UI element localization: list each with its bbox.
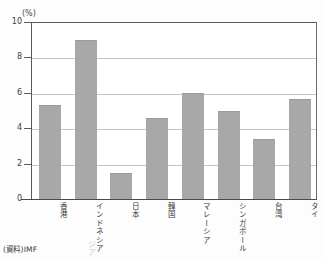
bar-series (32, 23, 316, 199)
bar (253, 139, 275, 199)
x-axis-category-label: 香港 (31, 202, 67, 219)
y-axis-tick (24, 164, 31, 165)
cut-off-header-text (0, 0, 323, 9)
bar-slot (104, 23, 140, 199)
x-axis-category-label: タイ (281, 202, 317, 219)
x-axis-category-label: インドネシア (67, 202, 103, 252)
bar-slot (68, 23, 104, 199)
x-axis-category-label: 台湾 (246, 202, 282, 219)
x-axis-category-label: マレーシア (174, 202, 210, 244)
x-axis-labels: 香港インドネシア日本韓国マレーシアシンガポール台湾タイ (31, 202, 317, 258)
x-axis-category-label: 日本 (103, 202, 139, 219)
bar (146, 118, 168, 199)
bar (75, 40, 97, 199)
bar (182, 93, 204, 199)
bar-slot (175, 23, 211, 199)
bar-slot (247, 23, 283, 199)
y-axis-tick (24, 57, 31, 58)
x-axis-category-label: シンガポール (210, 202, 246, 252)
chart-page: (%) 0246810 香港インドネシア日本韓国マレーシアシンガポール台湾タイ … (0, 0, 323, 261)
scan-artifact-text: ジア (86, 240, 94, 256)
y-axis-tick-label: 2 (2, 159, 22, 168)
y-axis-unit-label: (%) (22, 9, 36, 18)
bar-slot (282, 23, 318, 199)
plot-area (31, 22, 317, 199)
source-note: (資料)IMF (3, 243, 37, 254)
y-axis-tick-label: 10 (2, 17, 22, 26)
y-axis-tick-label: 0 (2, 194, 22, 203)
x-axis-line (21, 199, 317, 200)
bar-slot (139, 23, 175, 199)
y-axis-tick (24, 93, 31, 94)
x-axis-category-label: 韓国 (138, 202, 174, 219)
y-axis-tick (24, 22, 31, 23)
bar (218, 111, 240, 200)
bar (289, 99, 311, 199)
bar-slot (211, 23, 247, 199)
y-axis-tick-label: 6 (2, 88, 22, 97)
bar (39, 105, 61, 199)
bar (110, 173, 132, 199)
bar-slot (32, 23, 68, 199)
y-axis-tick-label: 4 (2, 123, 22, 132)
y-axis-tick-label: 8 (2, 52, 22, 61)
y-axis-tick (24, 128, 31, 129)
